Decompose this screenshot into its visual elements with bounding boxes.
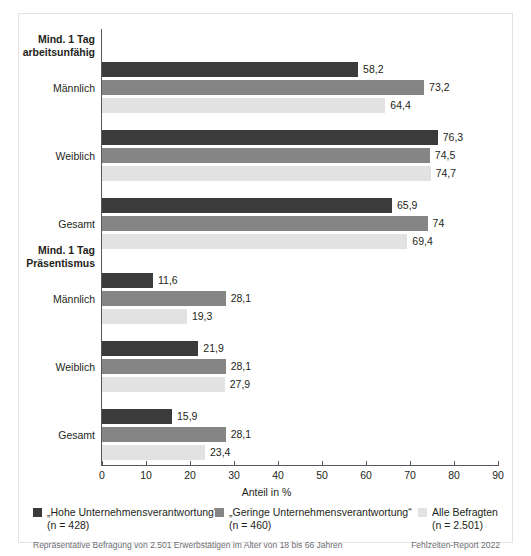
legend-sample-size: (n = 2.501) <box>432 519 498 532</box>
x-tick-label: 80 <box>448 469 460 481</box>
group-heading-line: Mind. 1 Tag <box>19 33 95 46</box>
bar <box>102 130 438 145</box>
x-tick-mark <box>366 461 367 466</box>
bar-value-label: 19,3 <box>192 309 212 324</box>
category-label: Gesamt <box>19 218 95 230</box>
category-label: Gesamt <box>19 429 95 441</box>
x-tick-mark <box>410 461 411 466</box>
group-heading-line: Präsentismus <box>19 257 95 270</box>
bar <box>102 216 428 231</box>
bar-value-label: 28,1 <box>231 359 251 374</box>
bar-value-label: 64,4 <box>390 98 410 113</box>
bar <box>102 198 392 213</box>
x-axis-title: Anteil in % <box>19 486 514 498</box>
bar-value-label: 11,6 <box>158 273 178 288</box>
bar-value-label: 76,3 <box>443 130 463 145</box>
plot-area: Mind. 1 TagarbeitsunfähigMind. 1 TagPräs… <box>19 14 514 474</box>
bar <box>102 341 198 356</box>
legend-label: Alle Befragten <box>432 506 498 518</box>
x-tick-label: 0 <box>99 469 105 481</box>
bar-value-label: 74 <box>433 216 445 231</box>
bar-value-label: 28,1 <box>231 427 251 442</box>
bar <box>102 359 226 374</box>
legend-label: „Hohe Unternehmensverantwortung“ <box>47 506 217 518</box>
legend-swatch-icon <box>215 508 224 517</box>
x-tick-mark <box>454 461 455 466</box>
bar-value-label: 74,5 <box>435 148 455 163</box>
legend-label: „Geringe Unternehmensverantwortung“ <box>229 506 412 518</box>
group-heading: Mind. 1 Tagarbeitsunfähig <box>19 33 95 58</box>
bar-value-label: 28,1 <box>231 291 251 306</box>
bar-value-label: 58,2 <box>363 62 383 77</box>
bar <box>102 166 431 181</box>
group-heading: Mind. 1 TagPräsentismus <box>19 244 95 269</box>
x-tick-label: 50 <box>316 469 328 481</box>
category-label: Weiblich <box>19 361 95 373</box>
bar <box>102 309 187 324</box>
bar-value-label: 73,2 <box>429 80 449 95</box>
chart-figure: Mind. 1 TagarbeitsunfähigMind. 1 TagPräs… <box>18 13 513 543</box>
category-label: Männlich <box>19 82 95 94</box>
x-tick-mark <box>190 461 191 466</box>
x-tick-mark <box>498 461 499 466</box>
bar <box>102 445 205 460</box>
legend-swatch-icon <box>33 508 42 517</box>
value-axis-line <box>101 465 498 466</box>
bar <box>102 409 172 424</box>
footnote-text: Repräsentative Befragung von 2.501 Erwer… <box>33 540 343 550</box>
group-heading-line: Mind. 1 Tag <box>19 244 95 257</box>
bar-value-label: 21,9 <box>203 341 223 356</box>
x-tick-label: 60 <box>360 469 372 481</box>
legend-item[interactable]: Alle Befragten(n = 2.501) <box>418 506 498 532</box>
category-label: Weiblich <box>19 150 95 162</box>
bar <box>102 98 385 113</box>
legend-sample-size: (n = 460) <box>229 519 412 532</box>
chart-legend: „Hohe Unternehmensverantwortung“(n = 428… <box>19 506 514 540</box>
bar-value-label: 23,4 <box>210 445 230 460</box>
bar <box>102 291 226 306</box>
bar <box>102 273 153 288</box>
x-tick-mark <box>102 461 103 466</box>
legend-item[interactable]: „Geringe Unternehmensverantwortung“(n = … <box>215 506 412 532</box>
x-tick-label: 40 <box>272 469 284 481</box>
x-tick-label: 90 <box>492 469 504 481</box>
x-tick-label: 20 <box>184 469 196 481</box>
bar-value-label: 15,9 <box>177 409 197 424</box>
bar <box>102 62 358 77</box>
x-tick-label: 70 <box>404 469 416 481</box>
x-tick-mark <box>146 461 147 466</box>
bar-value-label: 74,7 <box>436 166 456 181</box>
bar <box>102 80 424 95</box>
x-tick-mark <box>322 461 323 466</box>
bar <box>102 427 226 442</box>
legend-swatch-icon <box>418 508 427 517</box>
bar <box>102 234 407 249</box>
bar-value-label: 65,9 <box>397 198 417 213</box>
legend-item[interactable]: „Hohe Unternehmensverantwortung“(n = 428… <box>33 506 217 532</box>
group-heading-line: arbeitsunfähig <box>19 46 95 59</box>
x-tick-mark <box>234 461 235 466</box>
bar <box>102 377 225 392</box>
source-text: Fehlzeiten-Report 2022 <box>411 540 500 550</box>
bar-value-label: 27,9 <box>230 377 250 392</box>
bar-value-label: 69,4 <box>412 234 432 249</box>
x-tick-mark <box>278 461 279 466</box>
bar <box>102 148 430 163</box>
legend-sample-size: (n = 428) <box>47 519 217 532</box>
x-tick-label: 10 <box>140 469 152 481</box>
category-label: Männlich <box>19 293 95 305</box>
x-tick-label: 30 <box>228 469 240 481</box>
